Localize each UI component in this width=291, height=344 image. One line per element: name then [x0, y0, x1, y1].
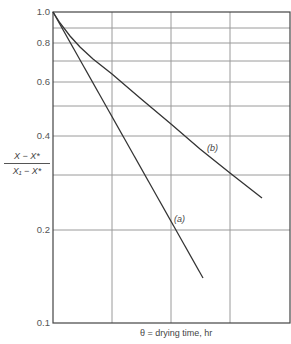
- x-axis-label: θ = drying time, hr: [140, 328, 212, 338]
- y-tick-1-0: 1.0: [37, 6, 50, 17]
- y-axis-label: X − X* X₁ − X*: [4, 150, 50, 177]
- y-tick-0-8: 0.8: [37, 37, 50, 48]
- y-axis-label-denominator: X₁ − X*: [4, 164, 50, 177]
- series-b-label: (b): [207, 143, 218, 153]
- series-a-label: (a): [174, 214, 185, 224]
- y-axis-label-numerator: X − X*: [4, 150, 50, 164]
- y-tick-0-1: 0.1: [37, 317, 50, 328]
- y-tick-0-4: 0.4: [37, 130, 50, 141]
- series-b-line: [53, 12, 262, 198]
- vertical-gridlines: [112, 12, 230, 323]
- series-a-line: [53, 12, 203, 278]
- y-tick-0-6: 0.6: [37, 76, 50, 87]
- y-tick-0-2: 0.2: [37, 224, 50, 235]
